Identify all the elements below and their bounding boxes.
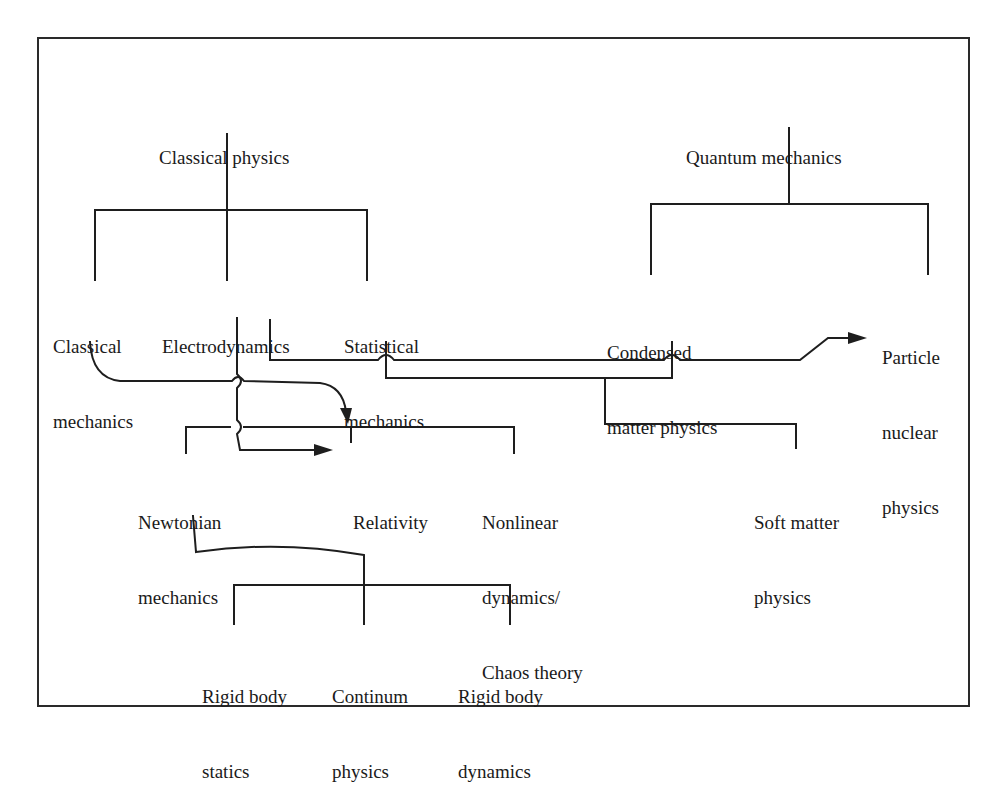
node-label: dynamics/ — [482, 585, 583, 610]
node-label: mechanics — [53, 409, 133, 434]
node-label: matter physics — [607, 415, 717, 440]
node-label: Rigid body — [202, 684, 287, 709]
node-label: Condensed — [607, 340, 717, 365]
node-label: Nonlinear — [482, 510, 583, 535]
node-label: mechanics — [138, 585, 221, 610]
node-label: Rigid body — [458, 684, 543, 709]
node-label: Statistical — [344, 334, 424, 359]
node-classical-physics: Classical physics — [159, 95, 289, 195]
lower-tree — [234, 585, 510, 624]
node-electrodynamics: Electrodynamics — [162, 284, 290, 384]
node-soft-matter-physics: Soft matter physics — [754, 460, 839, 635]
node-condensed-matter-physics: Condensed matter physics — [607, 290, 717, 465]
node-label: Quantum mechanics — [686, 145, 842, 170]
node-label: nuclear — [882, 420, 940, 445]
node-label: physics — [332, 759, 408, 784]
node-label: Relativity — [353, 510, 428, 535]
node-classical-mechanics: Classical mechanics — [53, 284, 133, 459]
node-label: Soft matter — [754, 510, 839, 535]
node-label: Continum — [332, 684, 408, 709]
node-label: mechanics — [344, 409, 424, 434]
node-particle-nuclear-physics: Particle nuclear physics — [882, 295, 940, 545]
node-label: physics — [754, 585, 839, 610]
node-statistical-mechanics: Statistical mechanics — [344, 284, 424, 459]
node-label: Particle — [882, 345, 940, 370]
node-rigid-body-statics: Rigid body statics — [202, 634, 287, 786]
node-label: dynamics — [458, 759, 543, 784]
node-label: Electrodynamics — [162, 334, 290, 359]
soft-matter-merge — [386, 342, 796, 448]
node-label: statics — [202, 759, 287, 784]
node-newtonian-mechanics: Newtonian mechanics — [138, 460, 221, 635]
node-label: physics — [882, 495, 940, 520]
node-rigid-body-dynamics: Rigid body dynamics — [458, 634, 543, 786]
node-quantum-mechanics: Quantum mechanics — [686, 95, 842, 195]
node-label: Newtonian — [138, 510, 221, 535]
node-continum-physics: Continum physics — [332, 634, 408, 786]
node-label: Classical physics — [159, 145, 289, 170]
node-label: Classical — [53, 334, 133, 359]
node-relativity: Relativity — [353, 460, 428, 560]
